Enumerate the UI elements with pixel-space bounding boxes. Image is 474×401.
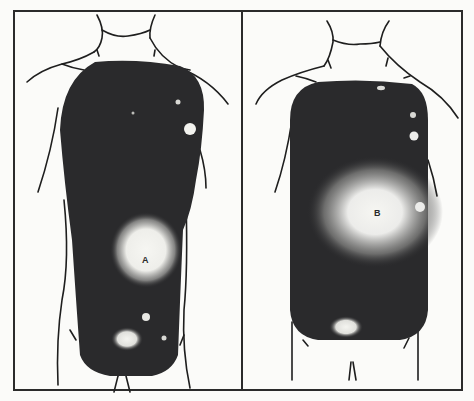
hotspot-small: [132, 112, 135, 115]
scintigraphy-figure: A: [0, 0, 474, 401]
hotspot-small: [162, 336, 167, 341]
label-a: A: [142, 255, 149, 265]
hotspot-small: [176, 100, 181, 105]
hotspot-small: [111, 327, 143, 351]
figure-canvas: A: [0, 0, 474, 401]
hotspot-small: [415, 202, 425, 212]
hotspot-small: [142, 313, 150, 321]
hotspot-small: [410, 112, 416, 118]
hotspot-small: [184, 123, 196, 135]
label-b: B: [374, 208, 381, 218]
hotspot-small: [329, 316, 363, 338]
hotspot-small: [410, 132, 419, 141]
hotspot-a: [110, 212, 182, 288]
hotspot-small: [377, 86, 385, 90]
